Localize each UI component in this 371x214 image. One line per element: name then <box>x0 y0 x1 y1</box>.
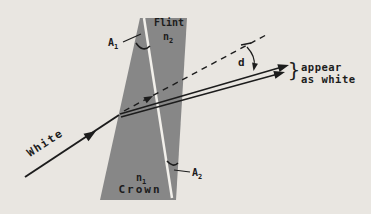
flint-material-label: Flint <box>154 17 184 28</box>
angle-a1-subscript: 1 <box>114 43 118 51</box>
deviation-angle-label: d <box>238 56 245 69</box>
angle-a2-label: A2 <box>192 167 202 181</box>
flint-index-subscript: 2 <box>169 37 173 45</box>
result-label-line1: appear <box>301 61 342 73</box>
deviation-arc-arrowhead <box>251 63 258 72</box>
result-label-line2: as white <box>301 73 356 85</box>
optics-prism-figure: Flint n2 n1 Crown A1 A2 White d } appear… <box>0 0 371 214</box>
diagram-canvas: Flint n2 n1 Crown A1 A2 White d } appear… <box>0 0 371 214</box>
result-brace: } <box>288 58 300 82</box>
deviation-tick <box>241 43 251 45</box>
angle-a2-subscript: 2 <box>198 173 202 181</box>
angle-a1-label: A1 <box>108 37 118 51</box>
crown-material-label: Crown <box>118 183 161 196</box>
